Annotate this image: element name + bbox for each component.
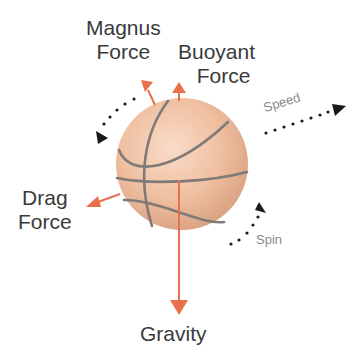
magnus-line2: Force <box>86 40 161 64</box>
magnus-arrow-icon <box>141 80 155 105</box>
drag-arrow-icon <box>86 194 120 207</box>
buoyant-line1: Buoyant <box>178 40 255 64</box>
drag-line1: Drag <box>18 186 72 210</box>
magnus-force-label: Magnus Force <box>86 16 161 64</box>
magnus-line1: Magnus <box>86 16 161 40</box>
drag-line2: Force <box>18 210 72 234</box>
drag-force-label: Drag Force <box>18 186 72 234</box>
buoyant-force-label: Buoyant Force <box>178 40 255 88</box>
force-diagram: Magnus Force Buoyant Force Drag Force Gr… <box>0 0 362 358</box>
buoyant-line2: Force <box>178 64 255 88</box>
spin-label: Spin <box>256 232 282 247</box>
basketball-icon <box>116 98 248 230</box>
gravity-label: Gravity <box>140 322 207 346</box>
